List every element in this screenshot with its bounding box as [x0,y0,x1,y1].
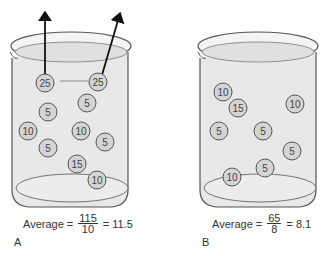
equals-sign: = [286,218,292,230]
svg-text:10: 10 [217,87,229,98]
ball: 10 [214,83,232,101]
ball: 5 [254,122,272,140]
ball: 10 [19,122,37,140]
svg-text:5: 5 [84,98,90,109]
ball: 5 [210,122,228,140]
ball: 25 [36,74,54,92]
svg-text:10: 10 [226,172,238,183]
ball: 10 [72,122,90,140]
svg-text:5: 5 [260,126,266,137]
ball: 5 [78,94,96,112]
svg-text:5: 5 [45,107,51,118]
equals-sign: = [67,218,73,230]
denominator: 10 [82,224,94,234]
svg-text:5: 5 [262,163,268,174]
ball: 5 [39,139,57,157]
ball: 10 [286,95,304,113]
svg-text:5: 5 [216,126,222,137]
average-label: Average [212,218,253,230]
fraction: 65 8 [267,213,281,234]
ball: 5 [283,142,301,160]
svg-text:5: 5 [45,143,51,154]
average-label: Average [23,218,64,230]
svg-text:15: 15 [71,159,83,170]
svg-text:10: 10 [289,99,301,110]
average-result: 8.1 [296,218,311,230]
ball: 5 [39,103,57,121]
ball: 5 [256,159,274,177]
svg-text:10: 10 [75,126,87,137]
ball: 25 [89,73,107,91]
ball: 15 [68,155,86,173]
svg-text:10: 10 [22,126,34,137]
svg-text:25: 25 [39,78,51,89]
ball: 10 [223,168,241,186]
svg-text:15: 15 [232,103,244,114]
average-formula-b: Average = 65 8 = 8.1 [212,213,311,234]
svg-text:5: 5 [289,146,295,157]
ball: 10 [88,171,106,189]
fraction: 115 10 [78,213,98,234]
ball: 15 [229,99,247,117]
panel-label-a: A [14,236,21,248]
ball: 5 [96,133,114,151]
average-formula-a: Average = 115 10 = 11.5 [23,213,133,234]
equals-sign: = [256,218,262,230]
denominator: 8 [271,224,277,234]
panel-label-b: B [202,236,209,248]
average-result: 11.5 [112,218,133,230]
equals-sign: = [103,218,109,230]
beaker-b [198,32,318,207]
svg-text:25: 25 [92,77,104,88]
svg-text:5: 5 [102,137,108,148]
svg-text:10: 10 [91,175,103,186]
beaker-a [10,32,131,207]
